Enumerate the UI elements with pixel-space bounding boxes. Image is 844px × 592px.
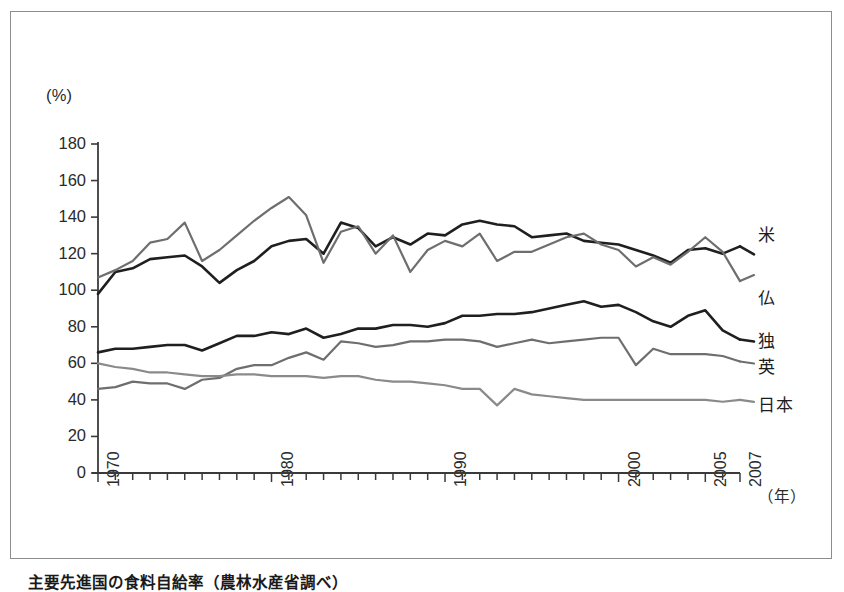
series-line-2 [98,301,740,352]
series-line-3 [98,338,740,389]
series-leader-2 [740,340,754,342]
series-line-0 [98,221,740,294]
series-leader-1 [740,275,754,281]
series-leader-0 [740,246,754,254]
series-leader-4 [740,400,754,402]
figure-caption: 主要先進国の食料自給率（農林水産省調べ） [28,570,348,592]
series-leader-3 [740,362,754,364]
